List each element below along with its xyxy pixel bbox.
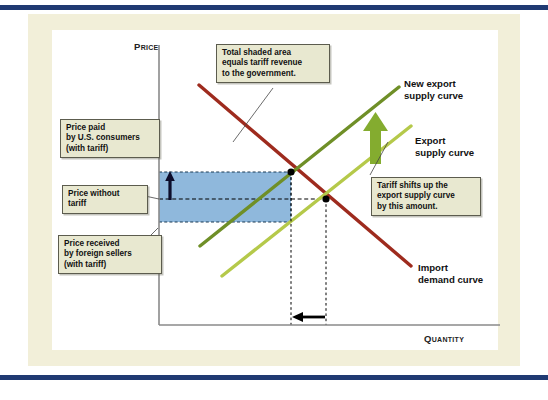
label-export-supply-curve: Export supply curve (415, 135, 474, 159)
callout-price-paid-by-consumers: Price paid by U.S. consumers (with tarif… (60, 119, 160, 158)
equilibrium-point-free-trade (322, 195, 329, 202)
tariff-shift-arrow (363, 112, 388, 164)
leader-line-total-shaded (233, 88, 273, 142)
callout-price-received-foreign-sellers: Price received by foreign sellers (with … (58, 235, 162, 274)
y-axis-label: Price (134, 41, 159, 52)
tariff-revenue-rectangle (159, 172, 291, 222)
label-import-demand-curve: Import demand curve (418, 262, 483, 286)
label-new-export-supply-curve: New export supply curve (404, 78, 463, 102)
callout-tariff-shift-amount: Tariff shifts up the export supply curve… (371, 177, 481, 216)
equilibrium-point-with-tariff (287, 168, 294, 175)
callout-total-shaded-area: Total shaded area equals tariff revenue … (216, 44, 330, 83)
callout-price-without-tariff: Price without tariff (62, 185, 148, 214)
quantity-decrease-arrow (292, 312, 325, 322)
figure-container: Price Quantity Total shaded area equals … (0, 0, 548, 400)
x-axis-label: Quantity (424, 333, 464, 344)
